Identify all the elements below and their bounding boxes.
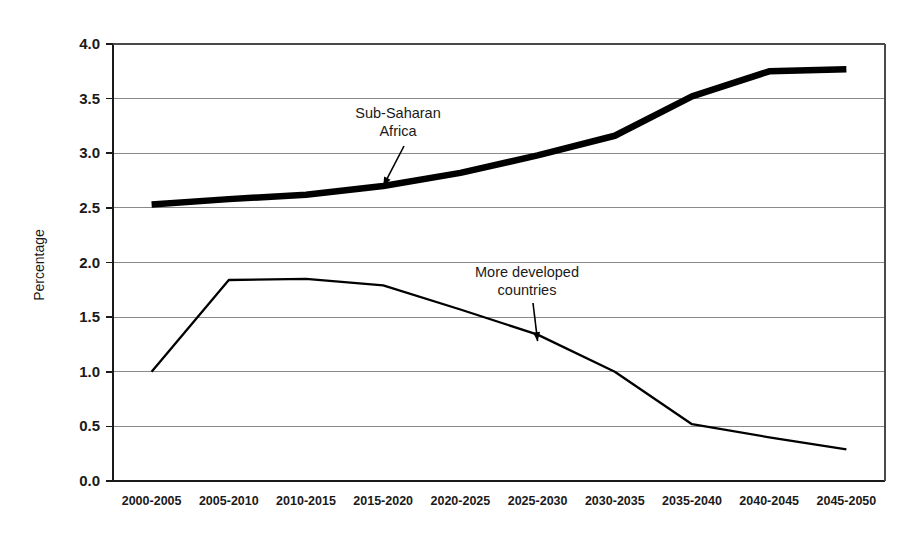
x-axis-tick-label: 2040-2045 bbox=[739, 494, 799, 508]
y-axis-tick-label: 2.5 bbox=[79, 199, 100, 216]
y-axis-tick-label: 3.5 bbox=[79, 90, 100, 107]
series-line-more-developed-countries bbox=[152, 279, 847, 449]
x-axis-tick-label: 2015-2020 bbox=[353, 494, 413, 508]
annotation-label-more-developed-countries-line2: countries bbox=[498, 282, 557, 298]
gridlines-group bbox=[113, 99, 885, 427]
annotation-more-developed-countries: More developed countries bbox=[475, 264, 579, 341]
tick-marks-group bbox=[106, 44, 113, 481]
annotation-label-sub-saharan-africa-line1: Sub-Saharan bbox=[355, 105, 440, 121]
annotation-sub-saharan-africa: Sub-Saharan Africa bbox=[355, 105, 440, 186]
x-axis-tick-label: 2020-2025 bbox=[431, 494, 491, 508]
y-axis-tick-labels-group: 4.03.53.02.52.01.51.00.50.0 bbox=[79, 35, 100, 489]
x-axis-tick-labels-group: 2000-20052005-20102010-20152015-20202020… bbox=[122, 494, 877, 508]
chart-figure: 4.03.53.02.52.01.51.00.50.0 2000-2005200… bbox=[0, 0, 915, 535]
y-axis-tick-label: 2.0 bbox=[79, 254, 100, 271]
y-axis-tick-label: 1.0 bbox=[79, 363, 100, 380]
x-axis-tick-label: 2045-2050 bbox=[817, 494, 877, 508]
y-axis-tick-label: 0.0 bbox=[79, 472, 100, 489]
y-axis-tick-label: 3.0 bbox=[79, 144, 100, 161]
annotation-label-sub-saharan-africa-line2: Africa bbox=[379, 123, 417, 139]
annotation-label-more-developed-countries-line1: More developed bbox=[475, 264, 579, 280]
x-axis-tick-label: 2000-2005 bbox=[122, 494, 182, 508]
line-chart-canvas: 4.03.53.02.52.01.51.00.50.0 2000-2005200… bbox=[0, 0, 915, 535]
x-axis-tick-label: 2010-2015 bbox=[276, 494, 336, 508]
y-axis-tick-label: 0.5 bbox=[79, 417, 100, 434]
y-axis-tick-label: 4.0 bbox=[79, 35, 100, 52]
y-axis-tick-label: 1.5 bbox=[79, 308, 100, 325]
x-axis-tick-label: 2035-2040 bbox=[662, 494, 722, 508]
y-axis-title: Percentage bbox=[31, 229, 47, 301]
x-axis-tick-label: 2005-2010 bbox=[199, 494, 259, 508]
x-axis-tick-label: 2030-2035 bbox=[585, 494, 645, 508]
x-axis-tick-label: 2025-2030 bbox=[508, 494, 568, 508]
series-line-sub-saharan-africa bbox=[152, 69, 847, 204]
